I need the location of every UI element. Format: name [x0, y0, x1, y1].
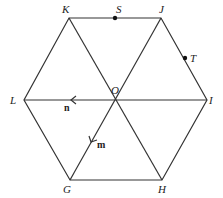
label-T: T [190, 52, 197, 64]
label-vector-m: m [97, 139, 106, 150]
point-S [113, 16, 117, 20]
label-O: O [111, 84, 119, 96]
label-K: K [61, 3, 70, 15]
label-J: J [159, 3, 165, 15]
label-G: G [63, 183, 71, 195]
diagonal-JG [70, 18, 161, 180]
hexagon-diagram: K J I H G L O S T n m [0, 0, 223, 198]
label-vector-n: n [64, 102, 70, 113]
label-H: H [157, 183, 167, 195]
label-S: S [116, 3, 122, 15]
label-I: I [208, 94, 214, 106]
label-L: L [9, 94, 16, 106]
point-T [183, 56, 187, 60]
